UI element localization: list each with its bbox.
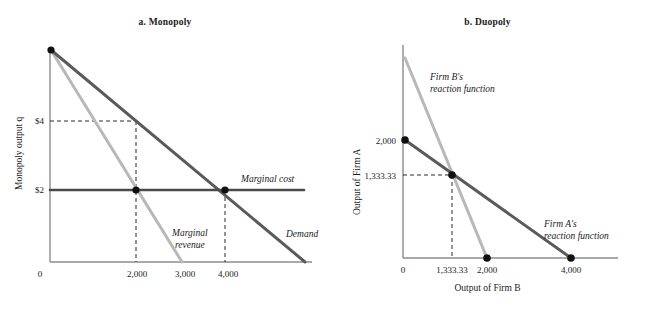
point-b-intercept-axis: [483, 254, 491, 262]
firm-a-label-line2: reaction function: [544, 231, 609, 243]
x-tick-133333-b: 1,333.33: [436, 265, 468, 275]
point-a-intercept: [401, 136, 409, 144]
y-tick-133333-b: 1,333.33: [365, 171, 397, 181]
marginal-revenue-label-line1: Marginal: [172, 228, 208, 240]
panel-monopoly: a. Monopoly Monopoly output q $4 $2: [0, 0, 330, 310]
y-tick-2000-b: 2,000: [376, 136, 396, 146]
point-monopoly-output: [132, 186, 139, 193]
point-a-intercept-axis: [567, 254, 575, 262]
demand-label: Demand: [286, 229, 318, 241]
panel-b-y-axis-label: Output of Firm A: [352, 149, 362, 215]
marginal-revenue-label-line2: revenue: [172, 240, 208, 252]
x-tick-0-b: 0: [401, 265, 406, 275]
x-tick-4000: 4,000: [218, 269, 238, 279]
firm-b-reaction-function-label: Firm B's reaction function: [430, 72, 495, 95]
economics-figure: a. Monopoly Monopoly output q $4 $2: [0, 0, 645, 310]
x-tick-4000-b: 4,000: [561, 265, 581, 275]
panel-a-y-axis-label: Monopoly output q: [14, 117, 24, 190]
firm-a-label-line1: Firm A's: [544, 219, 609, 231]
x-tick-2000-b: 2,000: [477, 265, 497, 275]
x-tick-0: 0: [38, 269, 43, 279]
marginal-revenue-curve: [51, 50, 182, 262]
panel-duopoly: b. Duopoly qA qB 2,000 1,333: [330, 0, 645, 310]
x-tick-3000: 3,000: [175, 269, 195, 279]
firm-b-label-line1: Firm B's: [430, 72, 495, 84]
panel-b-plot: [330, 0, 645, 310]
panel-b-x-axis-label: Output of Firm B: [330, 283, 645, 293]
panel-a-plot: [0, 0, 330, 310]
firm-a-reaction-function-label: Firm A's reaction function: [544, 219, 609, 242]
marginal-cost-label: Marginal cost: [241, 174, 294, 186]
point-competitive-output: [221, 186, 228, 193]
y-tick-4: $4: [35, 116, 44, 126]
y-tick-2: $2: [35, 185, 44, 195]
marginal-revenue-label: Marginal revenue: [172, 228, 208, 251]
point-choke-price: [47, 46, 54, 53]
firm-b-label-line2: reaction function: [430, 84, 495, 96]
point-cournot-equilibrium: [448, 171, 456, 179]
x-tick-2000: 2,000: [127, 269, 147, 279]
